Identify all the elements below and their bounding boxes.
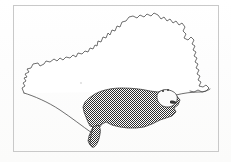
southern-coastline [24,93,92,133]
harbour-islet-west [162,90,164,92]
map-figure: Dorset [0,0,231,162]
scan-speck [80,82,82,84]
harbour-enclave [157,90,177,107]
portland-peninsula [90,125,100,147]
harbour-islet-east [167,89,169,91]
map-canvas [0,0,231,162]
county-boundary-outline [22,13,209,93]
